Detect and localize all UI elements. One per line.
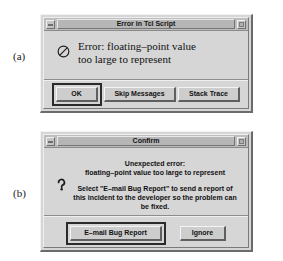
- minimize-glyph: [48, 141, 53, 143]
- question-mark-icon: [55, 178, 68, 193]
- confirm-message-line-5: be fixed.: [73, 202, 237, 211]
- dialog-frame-inner: Error in Tcl Script Error: floating–poin…: [43, 17, 249, 109]
- dialog-button-row: E–mail Bug Report Ignore: [44, 217, 248, 250]
- confirm-message-line-2: floating–point value too large to repres…: [73, 168, 237, 177]
- ok-button[interactable]: OK: [56, 87, 98, 102]
- skip-messages-button[interactable]: Skip Messages: [104, 87, 176, 102]
- confirm-message-line-1: Unexpected error:: [73, 159, 237, 168]
- figure-part-label-b: (b): [13, 187, 26, 199]
- minimize-box-icon[interactable]: [46, 137, 55, 146]
- email-bug-report-button[interactable]: E–mail Bug Report: [70, 226, 162, 241]
- message-area: Unexpected error: floating–point value t…: [44, 148, 248, 215]
- message-gap: [73, 177, 237, 184]
- confirm-message: Unexpected error: floating–point value t…: [73, 155, 241, 211]
- message-area: Error: floating–point value too large to…: [44, 31, 248, 79]
- titlebar: Error in Tcl Script: [44, 18, 248, 31]
- dialog-title: Error in Tcl Script: [117, 20, 176, 28]
- titlebar-track[interactable]: Error in Tcl Script: [57, 19, 235, 29]
- stack-trace-button[interactable]: Stack Trace: [178, 87, 240, 102]
- deny-circle-icon: [57, 45, 70, 58]
- minimize-box-icon[interactable]: [46, 20, 55, 29]
- dialog-frame-inner: Confirm Unexpected error: floating–point…: [43, 134, 249, 248]
- confirm-message-line-4: this incident to the developer so the pr…: [73, 193, 237, 202]
- question-icon-container: [49, 155, 73, 193]
- confirm-dialog-bug-report: Confirm Unexpected error: floating–point…: [40, 131, 253, 252]
- resize-glyph: [239, 139, 244, 144]
- dialog-button-row: OK Skip Messages Stack Trace: [44, 81, 248, 108]
- error-dialog-tcl-script: Error in Tcl Script Error: floating–poin…: [40, 14, 253, 113]
- resize-glyph: [239, 22, 244, 27]
- figure-part-label-a: (a): [13, 50, 25, 62]
- confirm-message-line-3: Select "E–mail Bug Report" to send a rep…: [73, 184, 237, 193]
- resize-box-icon[interactable]: [237, 20, 246, 29]
- titlebar: Confirm: [44, 135, 248, 148]
- error-message-line-2: too large to represent: [78, 53, 242, 66]
- email-bug-report-default-frame[interactable]: E–mail Bug Report: [66, 222, 166, 245]
- minimize-glyph: [48, 24, 53, 26]
- ok-button-default-frame[interactable]: OK: [52, 83, 102, 106]
- titlebar-track[interactable]: Confirm: [57, 136, 235, 146]
- error-icon-container: [50, 37, 76, 58]
- error-message: Error: floating–point value too large to…: [76, 37, 242, 66]
- resize-box-icon[interactable]: [237, 137, 246, 146]
- ignore-button[interactable]: Ignore: [180, 226, 226, 241]
- dialog-title: Confirm: [133, 137, 160, 145]
- error-message-line-1: Error: floating–point value: [78, 40, 242, 53]
